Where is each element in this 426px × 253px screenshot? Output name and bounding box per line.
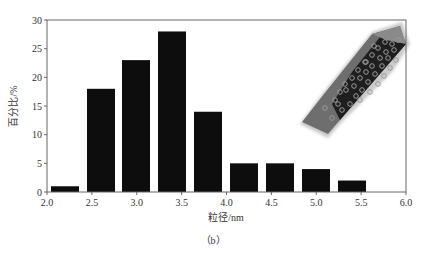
x-tick-label: 4.5 [265, 197, 278, 208]
y-tick-label: 5 [37, 158, 42, 169]
bar [266, 163, 294, 192]
bar [302, 169, 330, 192]
bar [122, 60, 150, 192]
bar-chart: 2.02.53.03.54.04.55.05.56.0 051015202530… [0, 0, 426, 253]
bar [51, 186, 79, 192]
y-tick-label: 30 [32, 15, 42, 26]
bar [194, 112, 222, 192]
y-tick-label: 0 [37, 187, 42, 198]
bar [87, 89, 115, 192]
x-tick-label: 2.5 [86, 197, 99, 208]
y-tick-label: 15 [32, 101, 42, 112]
x-tick-label: 5.5 [355, 197, 368, 208]
x-axis-ticks: 2.02.53.03.54.04.55.05.56.0 [41, 192, 413, 208]
bar [338, 181, 366, 192]
x-tick-label: 6.0 [400, 197, 413, 208]
x-tick-label: 2.0 [41, 197, 54, 208]
bar [158, 31, 186, 192]
y-axis-title: 百分比/% [8, 85, 19, 126]
x-tick-label: 3.5 [175, 197, 188, 208]
x-tick-label: 3.0 [131, 197, 144, 208]
y-tick-label: 25 [32, 43, 42, 54]
x-tick-label: 4.0 [220, 197, 233, 208]
y-axis-ticks: 051015202530 [32, 15, 47, 198]
figure-caption: （b） [0, 232, 426, 247]
nanoparticle-inset-image [300, 22, 410, 138]
x-axis-title: 粒径/nm [208, 211, 244, 223]
y-tick-label: 20 [32, 72, 42, 83]
bar [230, 163, 258, 192]
x-tick-label: 5.0 [310, 197, 323, 208]
y-tick-label: 10 [32, 129, 42, 140]
